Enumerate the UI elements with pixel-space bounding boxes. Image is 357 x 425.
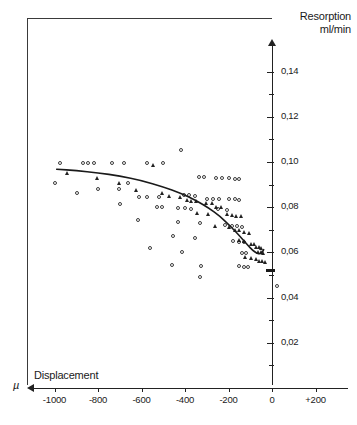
y-tick-major [267,117,274,118]
data-point-triangle [225,212,229,216]
y-tick-minor [269,365,274,366]
data-point-circle [275,284,279,288]
data-point-circle [193,194,197,198]
y-tick-label: 0,14 [281,66,298,76]
data-point-circle [118,202,122,206]
data-point-circle [179,148,183,152]
x-tick [185,388,186,392]
data-point-triangle [185,198,189,202]
data-point-triangle [134,188,138,192]
data-point-circle [180,250,184,254]
y-tick-minor [269,230,274,231]
x-axis-unit-label: µ [13,379,19,391]
x-tick-label: -600 [132,394,150,405]
data-point-circle [199,264,203,268]
data-point-triangle [219,205,223,209]
data-point-circle [220,176,224,180]
data-point-triangle [261,251,265,255]
data-point-triangle [237,238,241,242]
data-point-circle [86,161,90,165]
x-tick-label: -1000 [43,394,66,405]
data-point-triangle [247,231,251,235]
data-point-circle [198,275,202,279]
data-point-bar [266,269,275,272]
y-axis-line [272,45,273,385]
data-point-triangle [167,194,171,198]
data-point-triangle [117,181,121,185]
data-point-circle [170,263,174,267]
data-point-circle [189,207,193,211]
x-axis-title: Displacement [34,369,98,381]
data-point-circle [183,206,187,210]
data-point-circle [227,176,231,180]
data-point-circle [161,161,165,165]
y-tick-label: 0,06 [281,246,298,256]
data-point-circle [211,197,215,201]
data-point-circle [160,205,164,209]
data-point-circle [145,161,149,165]
x-tick-label: +200 [305,394,326,405]
data-point-triangle [160,191,164,195]
data-point-circle [53,181,57,185]
data-point-circle [227,197,231,201]
x-tick [229,388,230,392]
data-point-circle [193,236,197,240]
frame-left-border [27,18,28,385]
data-point-circle [202,175,206,179]
x-tick-label: -400 [176,394,194,405]
data-point-circle [58,161,62,165]
data-point-circle [155,205,159,209]
y-tick-label: 0,12 [281,111,298,121]
data-point-triangle [178,195,182,199]
data-point-triangle [249,256,253,260]
data-point-circle [198,221,202,225]
data-point-circle [75,191,79,195]
data-point-circle [233,197,237,201]
data-point-circle [92,161,96,165]
data-point-triangle [239,214,243,218]
y-tick-major [267,162,274,163]
data-point-circle [171,234,175,238]
data-point-circle [126,181,130,185]
data-point-circle [182,193,186,197]
y-axis-title-line1: Resorption [300,10,351,23]
data-point-circle [136,218,140,222]
data-point-circle [217,197,221,201]
data-point-circle [176,206,180,210]
data-point-triangle [195,211,199,215]
y-tick-major [267,298,274,299]
data-point-triangle [194,199,198,203]
y-tick-major [267,207,274,208]
data-point-circle [122,161,126,165]
y-tick-label: 0,08 [281,201,298,211]
data-point-circle [246,265,250,269]
y-tick-major [267,343,274,344]
data-point-triangle [214,205,218,209]
data-point-triangle [204,201,208,205]
data-point-circle [237,264,241,268]
y-tick-major [267,252,274,253]
data-point-triangle [65,171,69,175]
data-point-circle [81,161,85,165]
y-axis-title: Resorption ml/min [300,10,351,36]
data-point-triangle [95,176,99,180]
data-point-triangle [263,260,267,264]
data-point-circle [96,187,100,191]
y-tick-minor [269,320,274,321]
data-point-triangle [243,255,247,259]
frame-top-border [27,18,272,19]
x-tick-label: 0 [269,394,274,405]
data-point-circle [187,193,191,197]
data-point-circle [137,195,141,199]
x-tick-label: -200 [219,394,237,405]
data-point-circle [117,187,121,191]
x-tick [98,388,99,392]
data-point-circle [237,177,241,181]
data-point-triangle [189,199,193,203]
data-point-circle [148,246,152,250]
y-tick-major [267,72,274,73]
data-point-triangle [206,212,210,216]
data-point-triangle [237,228,241,232]
y-axis-title-line2: ml/min [300,23,351,36]
y-tick-label: 0,02 [281,337,298,347]
